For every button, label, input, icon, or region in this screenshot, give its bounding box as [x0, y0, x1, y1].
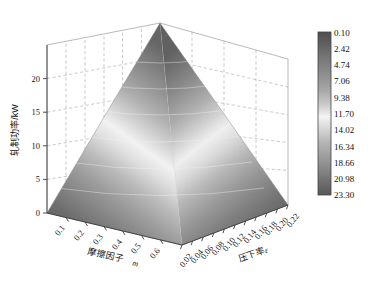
plot-canvas: 0 5 10 15 20 轧制功率/kW 0.1 0.2 0.3 0.4 0.5… — [0, 0, 376, 302]
colorbar-tick-6: 14.02 — [334, 125, 354, 135]
z-tick-15: 15 — [32, 107, 41, 117]
colorbar-gradient[interactable] — [318, 32, 331, 195]
colorbar-tick-1: 2.42 — [334, 44, 350, 54]
colorbar-tick-0: 0.10 — [334, 28, 350, 38]
z-tick-5: 5 — [36, 174, 40, 184]
colorbar-tick-8: 18.66 — [334, 158, 355, 168]
colorbar-tick-7: 16.34 — [334, 142, 355, 152]
z-tick-0: 0 — [36, 208, 40, 218]
colorbar-tick-5: 11.70 — [334, 109, 354, 119]
colorbar-tick-10: 23.30 — [334, 190, 355, 200]
surface-plot-figure: 0 5 10 15 20 轧制功率/kW 0.1 0.2 0.3 0.4 0.5… — [0, 0, 376, 302]
colorbar[interactable]: 0.10 2.42 4.74 7.06 9.38 11.70 14.02 16.… — [318, 28, 355, 200]
colorbar-tick-4: 9.38 — [334, 93, 350, 103]
colorbar-tick-3: 7.06 — [334, 76, 350, 86]
colorbar-tick-2: 4.74 — [334, 60, 350, 70]
z-axis-title: 轧制功率/kW — [9, 104, 20, 156]
z-tick-20: 20 — [32, 74, 41, 84]
z-tick-10: 10 — [32, 141, 41, 151]
colorbar-tick-9: 20.98 — [334, 174, 355, 184]
